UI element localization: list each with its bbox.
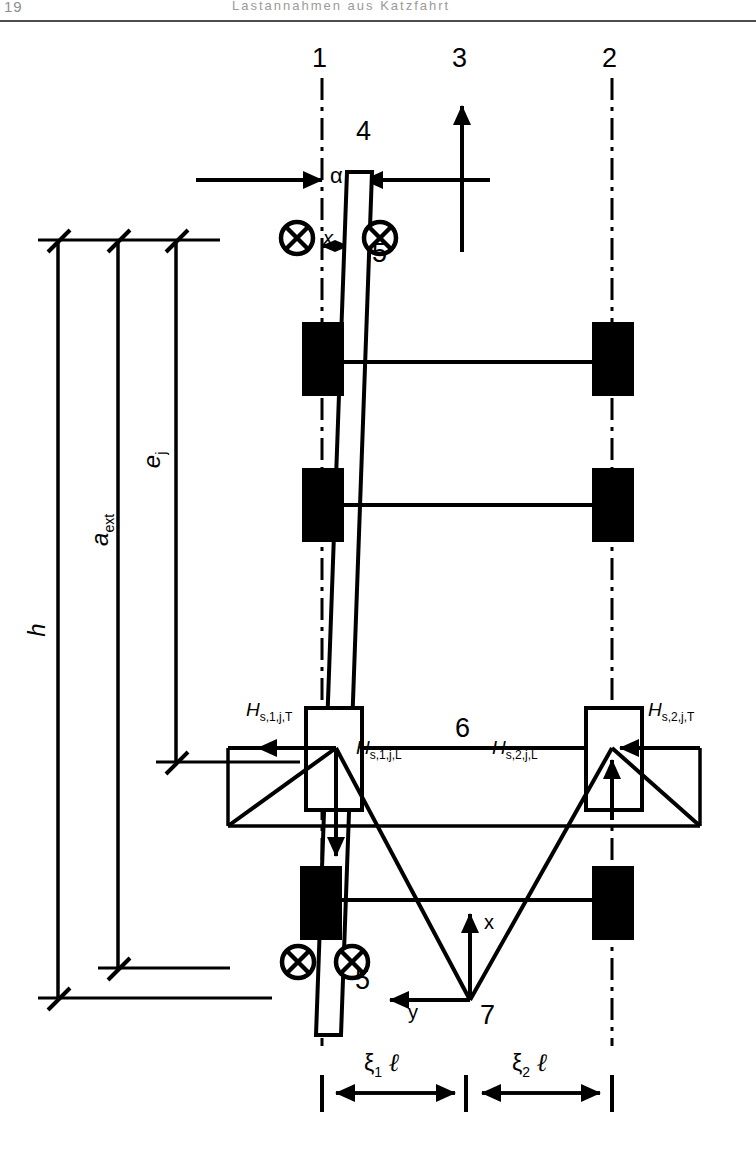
force-label-Hs1jL: Hs,1,j,L [356,738,402,761]
dimension-symbol: a [86,533,113,546]
wheel-block [300,866,342,940]
wheel-block [592,322,634,396]
technical-diagram [0,0,756,1164]
axle-group [322,362,612,900]
dimension-e-j [156,230,300,774]
force-symbol: H [356,737,370,758]
dimension-label-xi2-l: ξ2 ℓ [512,1050,547,1079]
dimension-label-xi1-l: ξ1 ℓ [364,1050,399,1079]
dimension-label-a-ext: aext [88,514,116,546]
force-subscript: s,1,j,T [260,710,293,724]
force-label-Hs2jT: Hs,2,j,T [648,700,694,723]
dimension-label-h: h [25,623,49,636]
figure-page: 19 Lastannahmen aus Katzfahrt [0,0,756,1164]
xi-subscript: 2 [522,1064,530,1080]
dimension-xi2-l [482,1075,612,1112]
callout-5-bottom: 5 [355,967,370,994]
skew-angle-label: α [330,165,343,187]
dimension-label-e-j: ej [140,452,168,468]
wheel-block [302,468,344,542]
dimension-symbol: e [138,455,165,468]
wheel-block [592,468,634,542]
xi-symbol: ξ [512,1050,522,1076]
dimension-a-ext [98,230,230,980]
dimension-xi1-l [322,1075,466,1112]
axis-y-label: y [408,1002,418,1022]
force-label-Hs2jL: Hs,2,j,L [492,738,538,761]
force-subscript: s,2,j,L [506,748,538,762]
force-subscript: s,2,j,T [662,710,695,724]
axis-x-label: x [484,912,494,932]
wheel-block [592,866,634,940]
dimension-symbol: h [23,623,50,636]
callout-6: 6 [455,715,470,742]
callout-5-top: 5 [372,240,387,267]
dimension-h [38,230,272,1010]
force-symbol: H [492,737,506,758]
force-label-Hs1jT: Hs,1,j,T [246,700,292,723]
dimension-subscript: ext [101,514,117,533]
callout-3: 3 [452,45,467,72]
callout-4: 4 [356,118,371,145]
dimension-subscript: j [153,452,169,455]
span-length-symbol: ℓ [537,1049,547,1076]
callout-1: 1 [312,45,327,72]
wheel-block [302,322,344,396]
callout-7: 7 [480,1002,495,1029]
xi-subscript: 1 [374,1064,382,1080]
span-length-symbol: ℓ [389,1049,399,1076]
force-subscript: s,1,j,L [370,748,402,762]
offset-x-label: x [323,228,333,248]
callout-2: 2 [602,45,617,72]
xi-symbol: ξ [364,1050,374,1076]
force-symbol: H [246,699,260,720]
force-symbol: H [648,699,662,720]
